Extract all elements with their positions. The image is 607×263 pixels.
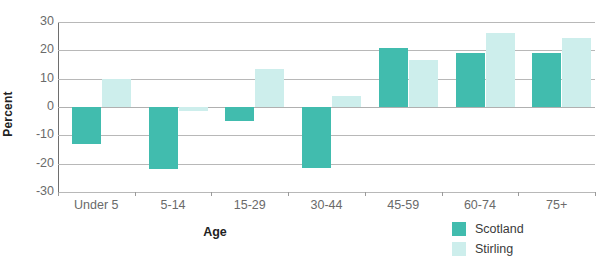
- bar-group: [365, 22, 442, 192]
- bar-group: [211, 22, 288, 192]
- legend-item-stirling: Stirling: [452, 239, 524, 259]
- bar-group: [518, 22, 595, 192]
- bar-stirling-45-59: [409, 60, 438, 107]
- x-tick-mark: [518, 192, 519, 196]
- bar-chart-figure: Percent Age Scotland Stirling 3020100-10…: [0, 0, 607, 263]
- bar-scotland-60-74: [456, 53, 485, 107]
- x-tick-mark: [442, 192, 443, 196]
- bar-group: [442, 22, 519, 192]
- bar-scotland-under-5: [72, 107, 101, 144]
- bar-stirling-60-74: [486, 33, 515, 107]
- y-tick-label-10: 10: [14, 72, 54, 85]
- y-tick-label-20: 20: [14, 43, 54, 56]
- y-tick-label--10: -10: [14, 128, 54, 141]
- x-tick-mark: [58, 192, 59, 196]
- y-tick-label-0: 0: [14, 100, 54, 113]
- bar-scotland-75+: [532, 53, 561, 107]
- bar-scotland-5-14: [149, 107, 178, 169]
- y-axis-title: Percent: [1, 69, 15, 159]
- y-tick-label-30: 30: [14, 15, 54, 28]
- bar-stirling-5-14: [179, 107, 208, 111]
- y-tick-label--20: -20: [14, 157, 54, 170]
- bar-scotland-45-59: [379, 48, 408, 108]
- legend-label-scotland: Scotland: [475, 222, 524, 236]
- legend-swatch-scotland: [452, 222, 466, 236]
- x-tick-mark: [135, 192, 136, 196]
- chart-legend: Scotland Stirling: [452, 219, 524, 259]
- bar-group: [135, 22, 212, 192]
- bar-group: [288, 22, 365, 192]
- bar-scotland-15-29: [225, 107, 254, 121]
- bar-stirling-30-44: [332, 96, 361, 107]
- x-tick-label-75+: 75+: [502, 198, 607, 212]
- legend-item-scotland: Scotland: [452, 219, 524, 239]
- plot-area: [58, 22, 595, 192]
- gridline--30: [58, 192, 595, 193]
- bar-scotland-30-44: [302, 107, 331, 168]
- x-tick-mark: [211, 192, 212, 196]
- x-tick-mark: [288, 192, 289, 196]
- x-tick-mark: [595, 192, 596, 196]
- y-tick-label--30: -30: [14, 185, 54, 198]
- bar-group: [58, 22, 135, 192]
- x-axis-title: Age: [155, 225, 275, 239]
- bar-stirling-under-5: [102, 79, 131, 107]
- bar-stirling-75+: [562, 38, 591, 107]
- legend-label-stirling: Stirling: [475, 242, 513, 256]
- legend-swatch-stirling: [452, 242, 466, 256]
- x-tick-mark: [365, 192, 366, 196]
- bar-stirling-15-29: [255, 69, 284, 107]
